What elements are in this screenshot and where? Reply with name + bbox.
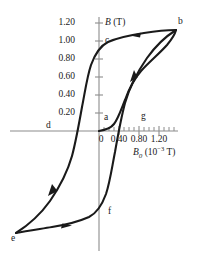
point-label-a: a <box>104 113 108 123</box>
ytick-label-0-80: 0.80 <box>41 54 75 64</box>
point-label-f: f <box>108 207 111 217</box>
point-label-d: d <box>46 121 51 131</box>
point-label-b: b <box>178 17 183 27</box>
y-axis-title: B (T) <box>105 18 125 28</box>
ytick-label-0-60: 0.60 <box>41 72 75 82</box>
y-axis-units: (T) <box>111 17 126 27</box>
arrow-left-down <box>48 184 58 196</box>
x-axis-units-open: (10 <box>142 147 157 157</box>
ytick-label-1-20: 1.20 <box>41 18 75 28</box>
x-axis-units-close: T) <box>164 147 175 157</box>
x-axis-title: B0 (10−3 T) <box>133 146 175 160</box>
hysteresis-loop-figure: 1.20 1.00 0.80 0.60 0.40 0.20 0 0.40 0.8… <box>0 0 210 258</box>
ytick-label-1-00: 1.00 <box>41 36 75 46</box>
ytick-label-0-20: 0.20 <box>41 108 75 118</box>
point-label-g: g <box>141 112 146 122</box>
ytick-label-0-40: 0.40 <box>41 90 75 100</box>
point-label-c: c <box>105 36 109 46</box>
xtick-label-1-20: 1.20 <box>146 135 172 145</box>
point-label-e: e <box>11 234 15 244</box>
initial-magnetization-curve <box>99 30 176 131</box>
